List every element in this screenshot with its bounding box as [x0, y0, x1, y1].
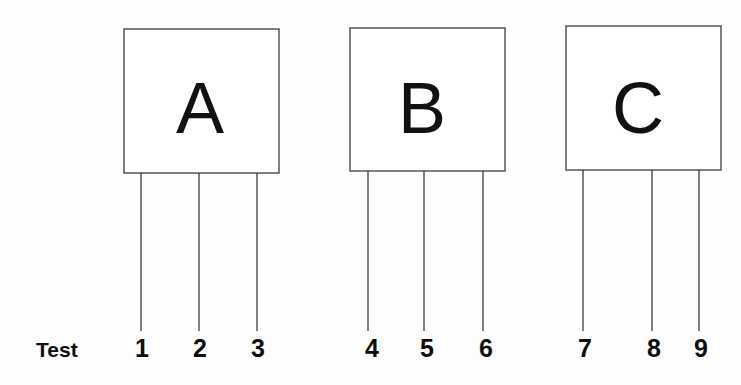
- pin-number-9: 9: [694, 334, 708, 362]
- device-block-a: A: [124, 29, 279, 173]
- pin-number-6: 6: [479, 334, 493, 362]
- schematic-diagram: ABC 123456789 Test: [0, 0, 741, 385]
- schematic-canvas: ABC 123456789 Test: [0, 0, 741, 385]
- pin-number-7: 7: [578, 334, 592, 362]
- pin-3: 3: [251, 173, 265, 362]
- pin-number-2: 2: [193, 334, 207, 362]
- pin-7: 7: [578, 170, 592, 362]
- pin-4: 4: [365, 171, 379, 362]
- pin-number-4: 4: [365, 334, 379, 362]
- pin-number-8: 8: [647, 334, 661, 362]
- pin-number-5: 5: [420, 334, 434, 362]
- pin-6: 6: [479, 171, 493, 362]
- device-label-c: C: [612, 68, 664, 148]
- pins-layer: 123456789: [135, 170, 708, 362]
- device-label-b: B: [398, 68, 446, 148]
- pin-1: 1: [135, 173, 149, 362]
- test-row-label: Test: [36, 338, 78, 361]
- pin-9: 9: [694, 170, 708, 362]
- pin-number-3: 3: [251, 334, 265, 362]
- blocks-layer: ABC: [124, 26, 721, 173]
- pin-number-1: 1: [135, 334, 149, 362]
- device-block-b: B: [350, 28, 505, 171]
- device-label-a: A: [176, 68, 224, 148]
- device-block-c: C: [566, 26, 721, 170]
- pin-2: 2: [193, 173, 207, 362]
- pin-8: 8: [647, 170, 661, 362]
- pin-5: 5: [420, 171, 434, 362]
